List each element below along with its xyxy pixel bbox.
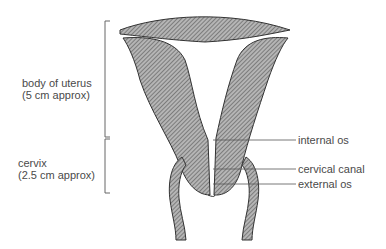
- uterus-diagram: [0, 0, 386, 249]
- label-line: (2.5 cm approx): [18, 169, 95, 181]
- left-uterine-wall: [123, 38, 210, 195]
- cervical-canal-label: cervical canal: [298, 163, 365, 175]
- label-line: body of uterus: [22, 77, 92, 89]
- right-vaginal-wall: [242, 157, 259, 240]
- internal-os-label: internal os: [298, 134, 349, 146]
- label-line: (5 cm approx): [22, 89, 92, 101]
- cervix-label: cervix (2.5 cm approx): [18, 157, 95, 181]
- cervix-bracket: [105, 139, 110, 193]
- body-of-uterus-label: body of uterus (5 cm approx): [22, 77, 92, 101]
- left-vaginal-wall: [169, 157, 186, 240]
- body-bracket: [105, 21, 110, 137]
- external-os-label: external os: [298, 178, 352, 190]
- label-line: cervix: [18, 157, 95, 169]
